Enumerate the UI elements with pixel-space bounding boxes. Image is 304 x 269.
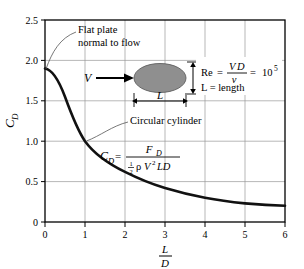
length-label: L xyxy=(156,89,163,101)
reynolds-value-exponent: 5 xyxy=(274,64,278,73)
x-tick-label-3: 3 xyxy=(163,229,168,240)
reynolds-label: Re xyxy=(201,67,213,78)
formula-velocity-exponent: 2 xyxy=(152,159,156,167)
formula-half-numerator: 1 xyxy=(129,160,132,167)
formula-density-symbol: ρ xyxy=(136,161,141,172)
y-tick-label-4: 0.5 xyxy=(26,176,39,187)
circular-cylinder-callout: Circular cylinder xyxy=(130,115,202,126)
chart-svg: 2.5 2.0 1.5 1.0 0.5 0 0 1 2 3 4 5 6 C D … xyxy=(0,0,304,269)
y-tick-label-3: 1.0 xyxy=(26,136,39,147)
x-tick-label-2: 2 xyxy=(123,229,128,240)
x-tick-label-0: 0 xyxy=(43,229,48,240)
x-tick-label-4: 4 xyxy=(203,229,208,240)
formula-equals: = xyxy=(115,150,121,162)
y-tick-label-5: 0 xyxy=(33,217,38,228)
flat-plate-callout-line2: normal to flow xyxy=(78,37,141,48)
y-tick-label-1: 2.0 xyxy=(26,55,39,66)
y-tick-label-2: 1.5 xyxy=(26,95,39,106)
drag-coefficient-chart: 2.5 2.0 1.5 1.0 0.5 0 0 1 2 3 4 5 6 C D … xyxy=(0,0,304,269)
reynolds-value-base: 10 xyxy=(262,67,273,78)
x-tick-label-5: 5 xyxy=(243,229,248,240)
reynolds-equals-2: = xyxy=(250,67,256,78)
x-tick-label-6: 6 xyxy=(283,229,288,240)
reynolds-equals-1: = xyxy=(217,67,223,78)
reynolds-number-box: Re = V D ν = 10 5 L = length xyxy=(196,57,282,95)
x-axis-title-numerator: L xyxy=(161,243,168,255)
formula-cd-subscript: D xyxy=(107,156,115,166)
reynolds-length-note: L = length xyxy=(201,82,245,93)
reynolds-numerator-diameter: D xyxy=(236,61,245,72)
formula-half-denominator: 2 xyxy=(129,168,132,175)
y-axis-title-sub: D xyxy=(10,113,20,121)
x-tick-label-1: 1 xyxy=(83,229,88,240)
formula-numerator-force: F xyxy=(145,143,153,155)
y-tick-label-0: 2.5 xyxy=(26,15,39,26)
formula-length-diameter: LD xyxy=(156,161,171,172)
flat-plate-callout-line1: Flat plate xyxy=(78,24,118,35)
x-axis-title-denominator: D xyxy=(160,257,169,269)
